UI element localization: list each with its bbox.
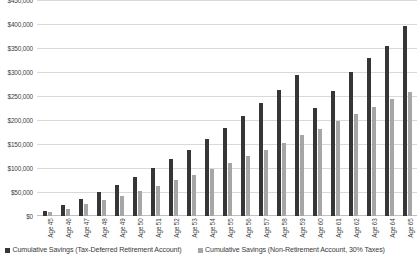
bar-secondary <box>372 107 376 216</box>
bar-group <box>74 0 92 216</box>
bar-secondary <box>318 129 322 216</box>
x-axis-tick-label: Age 50 <box>137 218 144 237</box>
bar-secondary <box>210 169 214 216</box>
y-axis-tick-label: $300,000 <box>8 69 33 76</box>
x-axis-tick: Age 54 <box>200 216 218 244</box>
bar-secondary <box>102 200 106 216</box>
bar-group <box>182 0 200 216</box>
bar-group <box>326 0 344 216</box>
bar-group <box>308 0 326 216</box>
y-axis-tick-label: $450,000 <box>8 0 33 4</box>
x-axis-tick-label: Age 49 <box>119 218 126 237</box>
bar-primary <box>115 185 119 216</box>
x-axis-tick: Age 56 <box>236 216 254 244</box>
x-axis-tick: Age 51 <box>146 216 164 244</box>
bar-group <box>110 0 128 216</box>
x-axis-tick: Age 57 <box>254 216 272 244</box>
bar-secondary <box>264 150 268 216</box>
bar-group <box>92 0 110 216</box>
legend-swatch-secondary <box>198 248 203 253</box>
x-axis-tick: Age 60 <box>308 216 326 244</box>
bar-secondary <box>192 175 196 216</box>
y-axis-tick-label: $0 <box>26 213 33 220</box>
bar-primary <box>385 46 389 216</box>
x-axis-tick: Age 49 <box>110 216 128 244</box>
x-axis-tick: Age 61 <box>326 216 344 244</box>
bar-group <box>164 0 182 216</box>
bar-primary <box>241 116 245 216</box>
bar-secondary <box>120 196 124 216</box>
x-axis-tick-label: Age 54 <box>209 218 216 237</box>
x-axis-tick: Age 64 <box>380 216 398 244</box>
x-axis-tick-label: Age 46 <box>65 218 72 237</box>
bar-secondary <box>228 163 232 216</box>
bar-secondary <box>354 114 358 216</box>
bar-group <box>56 0 74 216</box>
bar-primary <box>97 192 101 216</box>
x-axis-tick-label: Age 45 <box>47 218 54 237</box>
x-axis-tick-label: Age 52 <box>173 218 180 237</box>
x-axis-tick-label: Age 59 <box>299 218 306 237</box>
x-axis-tick: Age 55 <box>218 216 236 244</box>
x-axis: Age 45Age 46Age 47Age 48Age 49Age 50Age … <box>37 216 417 244</box>
bar-secondary <box>390 99 394 216</box>
bar-secondary <box>138 191 142 216</box>
bar-group <box>254 0 272 216</box>
bar-group <box>128 0 146 216</box>
bar-primary <box>61 205 65 216</box>
bar-primary <box>151 168 155 216</box>
bar-primary <box>367 58 371 216</box>
bar-primary <box>403 26 407 216</box>
bar-primary <box>277 90 281 216</box>
x-axis-tick: Age 65 <box>398 216 416 244</box>
gridlines-and-bars <box>37 0 417 216</box>
x-axis-tick: Age 52 <box>164 216 182 244</box>
x-axis-tick: Age 59 <box>290 216 308 244</box>
bar-group <box>236 0 254 216</box>
bar-group <box>380 0 398 216</box>
bar-group <box>290 0 308 216</box>
bar-group <box>362 0 380 216</box>
bar-secondary <box>174 180 178 216</box>
bar-secondary <box>84 204 88 216</box>
bar-primary <box>223 128 227 216</box>
bar-primary <box>169 159 173 216</box>
bar-secondary <box>408 92 412 216</box>
bar-group <box>200 0 218 216</box>
x-axis-tick-label: Age 58 <box>281 218 288 237</box>
bar-secondary <box>246 156 250 216</box>
x-axis-tick-label: Age 62 <box>353 218 360 237</box>
y-axis-tick-label: $250,000 <box>8 93 33 100</box>
bar-group <box>218 0 236 216</box>
bar-chart: $450,000$400,000$350,000$300,000$250,000… <box>0 0 420 262</box>
bar-primary <box>187 150 191 216</box>
bar-group <box>146 0 164 216</box>
x-axis-tick-label: Age 55 <box>227 218 234 237</box>
x-axis-tick-label: Age 63 <box>371 218 378 237</box>
x-axis-tick-label: Age 65 <box>407 218 414 237</box>
legend-item-tax-deferred: Cumulative Savings (Tax-Deferred Retirem… <box>5 246 182 254</box>
x-axis-tick-label: Age 57 <box>263 218 270 237</box>
bar-secondary <box>300 135 304 216</box>
bar-primary <box>133 177 137 216</box>
x-axis-tick: Age 46 <box>56 216 74 244</box>
x-axis-tick-label: Age 61 <box>335 218 342 237</box>
bar-primary <box>313 108 317 216</box>
legend-label-primary: Cumulative Savings (Tax-Deferred Retirem… <box>13 246 182 254</box>
x-axis-tick: Age 48 <box>92 216 110 244</box>
legend-swatch-primary <box>5 248 10 253</box>
x-axis-tick: Age 63 <box>362 216 380 244</box>
x-axis-tick: Age 45 <box>38 216 56 244</box>
x-axis-tick-label: Age 56 <box>245 218 252 237</box>
x-axis-tick-label: Age 53 <box>191 218 198 237</box>
x-axis-tick: Age 47 <box>74 216 92 244</box>
bar-group <box>344 0 362 216</box>
x-axis-tick-label: Age 60 <box>317 218 324 237</box>
legend-label-secondary: Cumulative Savings (Non-Retirement Accou… <box>205 246 385 254</box>
y-axis-tick-label: $50,000 <box>11 189 33 196</box>
y-axis-tick-label: $150,000 <box>8 141 33 148</box>
x-axis-tick: Age 53 <box>182 216 200 244</box>
y-axis-tick-label: $200,000 <box>8 117 33 124</box>
bar-group <box>398 0 416 216</box>
chart-legend: Cumulative Savings (Tax-Deferred Retirem… <box>0 246 420 262</box>
